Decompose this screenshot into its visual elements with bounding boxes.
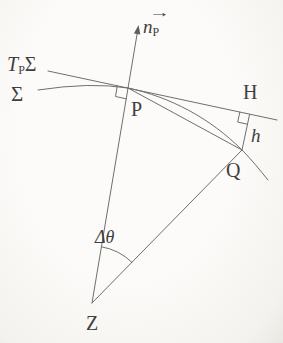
label-point-h: H [243,82,257,102]
label-surface: Σ [11,84,23,105]
chord-pq [128,88,242,150]
label-height: h [251,126,261,145]
geometry-figure: → nP TPΣ Σ P H h Q Z Δθ [0,0,283,343]
tangent-plane-t: T [7,53,18,75]
label-angle: Δθ [95,228,114,246]
segment-hq [242,114,250,150]
label-normal-vector: → nP [143,9,163,38]
diagram-canvas [0,0,283,343]
tangent-plane-sigma: Σ [25,53,37,75]
normal-vector-arrowhead-icon [134,25,140,35]
label-point-q: Q [226,160,240,180]
right-angle-marker-h [238,112,248,124]
normal-vector-subscript: P [153,25,160,39]
vector-arrow-icon: → [149,9,170,17]
label-tangent-plane: TPΣ [7,54,36,76]
label-point-z: Z [86,313,98,333]
label-point-p: P [131,99,142,119]
normal-line-zp [92,31,138,303]
angle-arc [101,247,131,262]
line-zq [92,150,242,303]
tangent-plane-subscript: P [18,63,25,77]
